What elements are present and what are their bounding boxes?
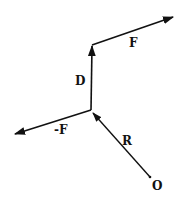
label-r: R [122, 134, 133, 148]
vector-diagram: F D -F R O [0, 0, 185, 203]
vector-neg-f [15, 110, 91, 134]
label-d: D [75, 74, 85, 88]
origin-point [149, 176, 152, 179]
vector-d [91, 46, 92, 110]
label-o: O [152, 179, 162, 193]
label-neg-f: -F [54, 123, 68, 137]
label-f: F [129, 36, 138, 50]
